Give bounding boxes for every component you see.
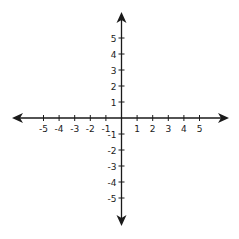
y-tick-label: 3: [111, 66, 117, 76]
coordinate-plane: -5-4-3-2-112345 54321-1-2-3-4-5: [0, 0, 239, 239]
x-tick-label: 2: [150, 124, 156, 134]
x-tick-label: -4: [55, 124, 64, 134]
x-tick-label: -3: [70, 124, 79, 134]
y-tick-label: 2: [111, 82, 117, 92]
y-tick-label: -4: [108, 178, 117, 188]
x-tick-label: 4: [181, 124, 187, 134]
y-tick-label: -5: [108, 194, 117, 204]
axes: [12, 12, 229, 226]
y-tick-label: -1: [108, 130, 117, 140]
x-tick-label: 3: [165, 124, 171, 134]
x-tick-label: -5: [39, 124, 48, 134]
y-tick-label: 1: [111, 98, 117, 108]
y-tick-label: 4: [111, 50, 117, 60]
x-tick-label: 1: [134, 124, 140, 134]
x-tick-label: 5: [197, 124, 203, 134]
y-tick-label: -3: [108, 162, 117, 172]
y-tick-label: -2: [108, 146, 117, 156]
y-tick-label: 5: [111, 34, 117, 44]
x-tick-label: -2: [86, 124, 95, 134]
